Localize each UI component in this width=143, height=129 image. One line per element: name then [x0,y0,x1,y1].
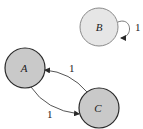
node-b-label: B [96,21,103,33]
node-a-label: A [20,62,28,74]
self-loop-line [118,21,130,38]
edge-b-self-loop-label: 1 [135,21,141,33]
edge-b-self-loop: 1 [118,21,141,38]
node-c-label: C [94,102,102,114]
node-b: B [80,8,118,46]
edge-c-to-a-label: 1 [69,62,75,74]
node-a: A [5,48,45,88]
edge-a-to-c-line [31,87,79,114]
edge-c-to-a: 1 [45,62,87,92]
edge-a-to-c-label: 1 [47,108,53,120]
edge-a-to-c: 1 [31,87,79,120]
edge-c-to-a-line [45,70,87,92]
graph-diagram: 1 1 1 B A C [0,0,143,129]
node-c: C [79,88,119,128]
